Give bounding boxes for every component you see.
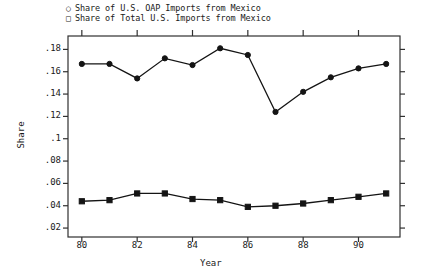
plot-frame [68,36,400,237]
data-point-marker [162,56,167,61]
data-point-marker [301,201,306,206]
data-point-marker [328,75,333,80]
data-point-marker [107,198,112,203]
data-point-marker [301,89,306,94]
data-point-marker [356,194,361,199]
data-point-marker [218,198,223,203]
data-point-marker [273,203,278,208]
plot-area [0,0,422,277]
data-point-marker [218,46,223,51]
data-point-marker [245,52,250,57]
data-point-marker [107,61,112,66]
data-point-marker [273,109,278,114]
data-point-marker [384,61,389,66]
data-point-marker [384,191,389,196]
data-point-marker [135,191,140,196]
data-point-marker [79,199,84,204]
data-point-marker [190,196,195,201]
data-point-marker [135,76,140,81]
chart-figure: ○ Share of U.S. OAP Imports from Mexico … [0,0,422,277]
data-point-marker [245,204,250,209]
series-line-oap-share [82,48,386,112]
data-point-marker [79,61,84,66]
data-point-marker [162,191,167,196]
data-point-marker [356,66,361,71]
data-point-marker [328,198,333,203]
data-point-marker [190,62,195,67]
series-line-total-share [82,193,386,206]
